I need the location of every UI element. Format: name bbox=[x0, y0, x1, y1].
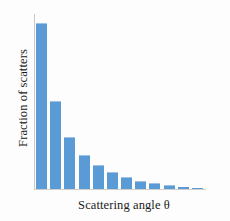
bar-8 bbox=[135, 181, 146, 189]
y-axis-line bbox=[34, 14, 35, 190]
plot-area bbox=[34, 14, 206, 190]
bar-3 bbox=[64, 137, 75, 189]
scattering-angle-bar-chart: Fraction of scatters Scattering angle θ bbox=[0, 0, 230, 221]
bar-10 bbox=[164, 185, 175, 189]
bar-9 bbox=[149, 183, 160, 189]
bar-6 bbox=[107, 172, 118, 190]
bar-12 bbox=[192, 188, 203, 189]
x-axis-label: Scattering angle θ bbox=[34, 198, 214, 213]
bar-series bbox=[36, 14, 206, 189]
bar-2 bbox=[50, 101, 61, 190]
x-axis-line bbox=[34, 189, 206, 190]
y-axis-label: Fraction of scatters bbox=[14, 18, 32, 178]
bar-11 bbox=[178, 187, 189, 189]
bar-5 bbox=[93, 165, 104, 189]
bar-7 bbox=[121, 177, 132, 189]
bar-4 bbox=[79, 155, 90, 189]
bar-1 bbox=[36, 23, 47, 189]
